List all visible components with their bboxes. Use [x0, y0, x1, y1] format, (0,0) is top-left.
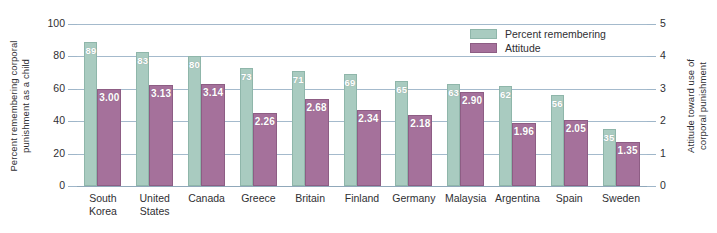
- chart-legend: Percent remembering Attitude: [470, 28, 606, 56]
- x-axis-label: Malaysia: [440, 192, 492, 205]
- y-tick-left-80: 80: [39, 50, 65, 61]
- y-tick-right-4: 4: [660, 50, 686, 61]
- x-axis-label: Spain: [543, 192, 595, 205]
- x-axis-label: Finland: [336, 192, 388, 205]
- bar-percent-remembering[interactable]: 69: [344, 74, 357, 186]
- bar-group: 712.68: [292, 24, 329, 186]
- y-tick-left-60: 60: [39, 83, 65, 94]
- bar-percent-remembering[interactable]: 56: [551, 95, 564, 186]
- bar-value-label: 80: [189, 59, 200, 70]
- gridline-0: [77, 186, 647, 187]
- y-tick-left-0: 0: [39, 180, 65, 191]
- bar-percent-remembering[interactable]: 83: [136, 52, 149, 186]
- bar-value-label: 56: [552, 98, 563, 109]
- y-tick-right-5: 5: [660, 18, 686, 29]
- y-tick-stub-left-80: [68, 56, 77, 57]
- bar-attitude[interactable]: 2.68: [305, 99, 329, 186]
- bar-group: 803.14: [188, 24, 225, 186]
- bar-value-label: 2.26: [254, 116, 276, 127]
- bar-percent-remembering[interactable]: 35: [603, 129, 616, 186]
- bar-group: 351.35: [603, 24, 640, 186]
- chart-figure: Percent remembering corporal punishment …: [0, 0, 717, 233]
- x-axis-label: Greece: [232, 192, 284, 205]
- y-tick-stub-right-0: [647, 186, 656, 187]
- bar-attitude[interactable]: 1.96: [512, 123, 536, 187]
- y-axis-left-title: Percent remembering corporal punishment …: [8, 16, 32, 196]
- legend-swatch-purple-icon: [470, 43, 497, 53]
- legend-label-percent-remembering: Percent remembering: [505, 28, 606, 40]
- bar-value-label: 2.05: [565, 123, 587, 134]
- y-tick-stub-right-1: [647, 154, 656, 155]
- bar-value-label: 62: [500, 89, 511, 100]
- bar-value-label: 3.13: [150, 88, 172, 99]
- bar-group: 652.18: [395, 24, 432, 186]
- bar-percent-remembering[interactable]: 65: [395, 81, 408, 186]
- x-axis-label: United States: [129, 192, 181, 217]
- bar-value-label: 65: [396, 84, 407, 95]
- y-tick-left-20: 20: [39, 148, 65, 159]
- bar-value-label: 89: [85, 45, 96, 56]
- legend-item-attitude: Attitude: [470, 42, 606, 54]
- legend-label-attitude: Attitude: [505, 42, 541, 54]
- bar-attitude[interactable]: 2.90: [460, 92, 484, 186]
- bar-group: 833.13: [136, 24, 173, 186]
- bar-value-label: 73: [241, 71, 252, 82]
- y-tick-stub-left-0: [68, 186, 77, 187]
- bar-percent-remembering[interactable]: 80: [188, 56, 201, 186]
- bar-value-label: 63: [448, 87, 459, 98]
- y-tick-left-40: 40: [39, 115, 65, 126]
- y-tick-stub-right-2: [647, 121, 656, 122]
- bar-group: 893.00: [84, 24, 121, 186]
- x-axis-label: Argentina: [492, 192, 544, 205]
- y-tick-stub-left-60: [68, 89, 77, 90]
- bar-percent-remembering[interactable]: 62: [499, 86, 512, 186]
- bar-value-label: 35: [604, 132, 615, 143]
- bar-percent-remembering[interactable]: 89: [84, 42, 97, 186]
- y-tick-stub-right-3: [647, 89, 656, 90]
- bar-value-label: 2.90: [461, 95, 483, 106]
- bar-value-label: 2.18: [409, 118, 431, 129]
- y-tick-stub-right-4: [647, 56, 656, 57]
- bar-value-label: 2.68: [306, 102, 328, 113]
- bar-attitude[interactable]: 2.18: [408, 115, 432, 186]
- bar-value-label: 3.14: [202, 87, 224, 98]
- bar-attitude[interactable]: 2.05: [564, 120, 588, 186]
- x-axis-label: Sweden: [595, 192, 647, 205]
- y-tick-stub-left-20: [68, 154, 77, 155]
- bar-value-label: 2.34: [358, 113, 380, 124]
- bar-value-label: 3.00: [98, 92, 120, 103]
- bar-attitude[interactable]: 2.26: [253, 113, 277, 186]
- bar-value-label: 71: [293, 74, 304, 85]
- bar-group: 732.26: [240, 24, 277, 186]
- bar-attitude[interactable]: 3.14: [201, 84, 225, 186]
- legend-swatch-green-icon: [470, 29, 497, 39]
- y-tick-right-2: 2: [660, 115, 686, 126]
- bar-value-label: 1.35: [617, 145, 639, 156]
- bar-group: 692.34: [344, 24, 381, 186]
- bar-percent-remembering[interactable]: 63: [447, 84, 460, 186]
- x-axis-label: Germany: [388, 192, 440, 205]
- bar-attitude[interactable]: 3.00: [97, 89, 121, 186]
- x-axis-label: Britain: [284, 192, 336, 205]
- y-tick-right-0: 0: [660, 180, 686, 191]
- bar-attitude[interactable]: 2.34: [357, 110, 381, 186]
- bar-value-label: 83: [137, 55, 148, 66]
- x-axis-label: Canada: [181, 192, 233, 205]
- y-tick-left-100: 100: [39, 18, 65, 29]
- y-tick-stub-right-5: [647, 24, 656, 25]
- bar-value-label: 1.96: [513, 126, 535, 137]
- y-tick-stub-left-40: [68, 121, 77, 122]
- y-tick-right-1: 1: [660, 148, 686, 159]
- y-tick-stub-left-100: [68, 24, 77, 25]
- y-axis-right-title: Attitude toward use of corporal punishme…: [685, 16, 709, 196]
- bar-attitude[interactable]: 3.13: [149, 85, 173, 186]
- bar-value-label: 69: [345, 77, 356, 88]
- legend-item-percent-remembering: Percent remembering: [470, 28, 606, 40]
- y-tick-right-3: 3: [660, 83, 686, 94]
- bar-attitude[interactable]: 1.35: [616, 142, 640, 186]
- bar-percent-remembering[interactable]: 73: [240, 68, 253, 186]
- bar-percent-remembering[interactable]: 71: [292, 71, 305, 186]
- x-axis-label: South Korea: [77, 192, 129, 217]
